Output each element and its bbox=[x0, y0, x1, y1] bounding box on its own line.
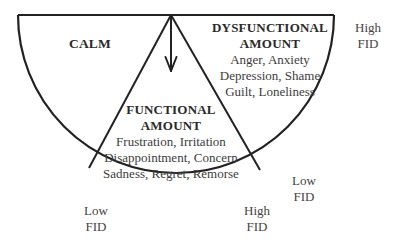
fid-label-bottom-right: Low FID bbox=[286, 173, 322, 205]
fid-level: Low bbox=[286, 173, 322, 189]
fid-label-top-right: High FID bbox=[350, 20, 386, 52]
dysfunctional-title-line2: AMOUNT bbox=[205, 36, 335, 52]
functional-emotion-line: Frustration, Irritation bbox=[101, 134, 241, 150]
functional-emotion-line: Disappointment, Concern bbox=[101, 150, 241, 166]
functional-emotion-line: Sadness, Regret, Remorse bbox=[101, 166, 241, 182]
dysfunctional-emotion-line: Depression, Shame bbox=[205, 68, 335, 84]
fid-level: Low bbox=[78, 203, 114, 219]
fid-label-bottom-center: High FID bbox=[239, 203, 275, 235]
fid-unit: FID bbox=[239, 219, 275, 235]
functional-title-line2: AMOUNT bbox=[101, 118, 241, 134]
dysfunctional-amount-region: DYSFUNCTIONAL AMOUNT Anger, Anxiety Depr… bbox=[205, 20, 335, 100]
fid-unit: FID bbox=[350, 36, 386, 52]
fid-unit: FID bbox=[286, 189, 322, 205]
dysfunctional-emotion-line: Guilt, Loneliness bbox=[205, 84, 335, 100]
dysfunctional-title-line1: DYSFUNCTIONAL bbox=[205, 20, 335, 36]
fid-level: High bbox=[350, 20, 386, 36]
fid-level: High bbox=[239, 203, 275, 219]
fid-unit: FID bbox=[78, 219, 114, 235]
functional-title-line1: FUNCTIONAL bbox=[101, 102, 241, 118]
fid-label-bottom-left: Low FID bbox=[78, 203, 114, 235]
dysfunctional-emotion-line: Anger, Anxiety bbox=[205, 52, 335, 68]
functional-amount-region: FUNCTIONAL AMOUNT Frustration, Irritatio… bbox=[101, 102, 241, 182]
calm-label: CALM bbox=[60, 36, 120, 52]
